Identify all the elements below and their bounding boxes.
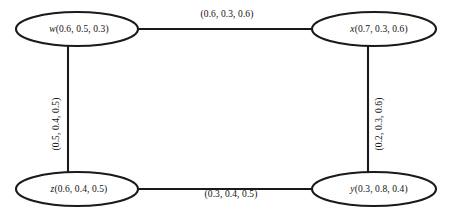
node-x-shape[interactable] (312, 12, 436, 46)
edge-label-w-x: (0.6, 0.3, 0.6) (201, 9, 254, 19)
node-w-shape[interactable] (16, 12, 138, 46)
node-z-shape[interactable] (16, 172, 138, 206)
edge-label-w-z: (0.5, 0.4, 0.5) (51, 98, 61, 151)
graph-diagram: w(0.6, 0.5, 0.3) x(0.7, 0.3, 0.6) z(0.6,… (0, 0, 450, 218)
edge-label-x-y: (0.2, 0.3, 0.6) (374, 98, 384, 151)
edge-label-z-y: (0.3, 0.4, 0.5) (205, 189, 258, 199)
node-y-shape[interactable] (312, 172, 436, 206)
